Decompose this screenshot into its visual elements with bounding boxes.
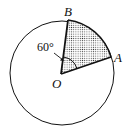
label-b: B	[64, 4, 72, 19]
circle-sector-diagram: B A O 60°	[0, 0, 128, 134]
label-a: A	[113, 50, 122, 65]
label-o: O	[52, 76, 62, 91]
angle-label: 60°	[37, 40, 54, 54]
